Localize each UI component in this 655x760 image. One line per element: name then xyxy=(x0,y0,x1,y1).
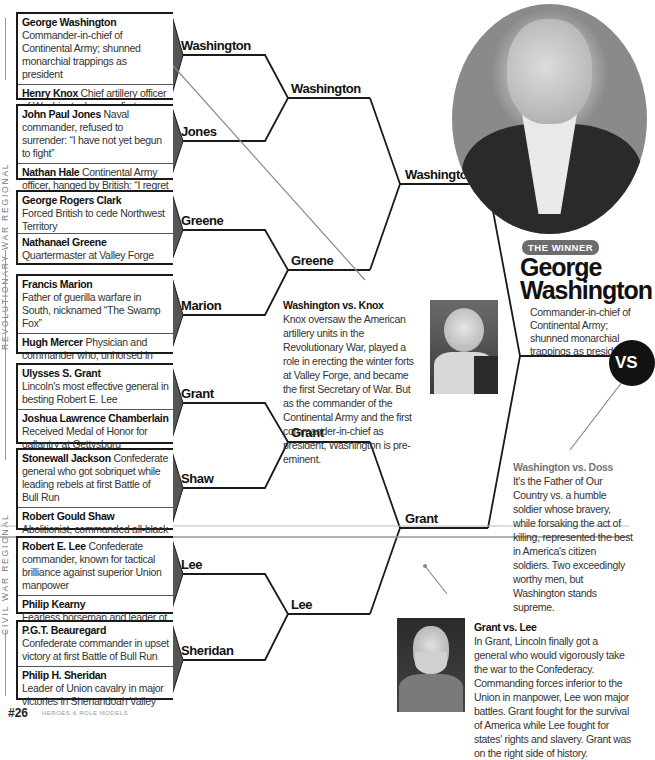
round1-winner-label: Grant xyxy=(181,386,214,401)
portrait-face xyxy=(507,19,592,124)
vs-badge: VS xyxy=(609,340,655,386)
contestant-name: Hugh Mercer xyxy=(22,336,83,348)
contestant-desc: Leader of Union cavalry in major victori… xyxy=(22,682,164,707)
matchup-card: Stonewall Jackson Confederate general wh… xyxy=(16,448,173,530)
portrait-beard xyxy=(415,652,447,674)
footer-section: HEROES & ROLE MODELS xyxy=(42,710,128,716)
round1-winner-label: Lee xyxy=(181,557,202,572)
round1-winner-label: Jones xyxy=(181,124,217,139)
matchup-card: Robert E. Lee Confederate commander, kno… xyxy=(16,536,173,614)
commentary-washington-knox: Washington vs. Knox Knox oversaw the Ame… xyxy=(283,298,421,466)
winner-name: George Washington xyxy=(520,256,652,302)
contestant-entry: P.G.T. BeauregardConfederate commander i… xyxy=(18,622,173,666)
matchup-card: John Paul Jones Naval commander, refused… xyxy=(16,104,173,180)
contestant-entry: Robert E. Lee Confederate commander, kno… xyxy=(18,538,173,595)
contestant-name: George Rogers Clark xyxy=(22,194,169,207)
contestant-entry: Philip H. SheridanLeader of Union cavalr… xyxy=(18,666,173,711)
round1-winner-label: Marion xyxy=(181,298,221,313)
contestant-entry: George Rogers ClarkForced British to ced… xyxy=(18,192,173,233)
contestant-name: Nathanael Greene xyxy=(22,236,169,249)
contestant-entry: Ulysses S. GrantLincoln's most effective… xyxy=(18,365,173,409)
contestant-desc: Commander-in-chief of Continental Army; … xyxy=(22,29,141,80)
matchup-card: P.G.T. BeauregardConfederate commander i… xyxy=(16,620,173,700)
contestant-desc: Father of guerilla warfare in South, nic… xyxy=(22,291,160,329)
contestant-name: P.G.T. Beauregard xyxy=(22,624,169,637)
contestant-name: Robert Gould Shaw xyxy=(22,510,169,523)
commentary-body: Knox oversaw the American artillery unit… xyxy=(283,313,414,465)
commentary-grant-lee: Grant vs. Lee In Grant, Lincoln finally … xyxy=(474,620,632,760)
contestant-name: Robert E. Lee xyxy=(22,540,86,552)
contestant-entry: Stonewall Jackson Confederate general wh… xyxy=(18,450,173,507)
contestant-name: Philip Kearny xyxy=(22,598,169,611)
contestant-desc: Quartermaster at Valley Forge xyxy=(22,249,154,261)
contestant-entry: George Washington Commander-in-chief of … xyxy=(18,14,173,84)
page-number: #26 xyxy=(8,706,28,720)
knox-portrait xyxy=(430,300,498,394)
commentary-title: Grant vs. Lee xyxy=(474,620,632,634)
washington-portrait xyxy=(452,4,647,234)
contestant-name: John Paul Jones xyxy=(22,108,101,120)
commentary-body: It's the Father of Our Country vs. a hum… xyxy=(513,475,633,613)
commentary-body: In Grant, Lincoln finally got a general … xyxy=(474,635,631,759)
contestant-name: Nathan Hale xyxy=(22,166,79,178)
portrait-lapel xyxy=(474,356,498,394)
round3-winner-label: Grant xyxy=(405,511,438,526)
contestant-name: Stonewall Jackson xyxy=(22,452,111,464)
commentary-title: Washington vs. Doss xyxy=(513,460,633,474)
portrait-coat xyxy=(399,674,463,712)
contestant-entry: John Paul Jones Naval commander, refused… xyxy=(18,106,173,163)
round1-winner-label: Sheridan xyxy=(181,643,233,658)
contestant-name: Francis Marion xyxy=(22,278,169,291)
contestant-desc: Received Medal of Honor for gallantry at… xyxy=(22,425,148,450)
round1-winner-label: Greene xyxy=(181,213,223,228)
contestant-desc: Forced British to cede Northwest Territo… xyxy=(22,207,165,232)
matchup-card: Ulysses S. GrantLincoln's most effective… xyxy=(16,363,173,444)
contestant-name: Ulysses S. Grant xyxy=(22,367,169,380)
contestant-entry: Francis MarionFather of guerilla warfare… xyxy=(18,276,173,333)
winner-name-line2: Washington xyxy=(520,279,652,302)
round2-winner-label: Washington xyxy=(291,81,361,96)
matchup-card: George Rogers ClarkForced British to ced… xyxy=(16,190,173,265)
lee-portrait xyxy=(397,618,465,712)
matchup-card: Francis MarionFather of guerilla warfare… xyxy=(16,274,173,354)
contestant-name: Joshua Lawrence Chamberlain xyxy=(22,412,169,425)
contestant-desc: Lincoln's most effective general in best… xyxy=(22,380,169,405)
portrait-face xyxy=(444,308,484,352)
round1-winner-label: Shaw xyxy=(181,471,213,486)
commentary-washington-doss: Washington vs. Doss It's the Father of O… xyxy=(513,460,633,614)
round2-winner-label: Greene xyxy=(291,253,333,268)
contestant-entry: Nathanael GreeneQuartermaster at Valley … xyxy=(18,233,173,265)
contestant-name: Henry Knox xyxy=(22,87,78,99)
round1-winner-label: Washington xyxy=(181,38,251,53)
contestant-name: George Washington xyxy=(22,16,116,28)
contestant-name: Philip H. Sheridan xyxy=(22,669,169,682)
commentary-title: Washington vs. Knox xyxy=(283,298,421,312)
matchup-card: George Washington Commander-in-chief of … xyxy=(16,12,173,100)
contestant-desc: Confederate commander in upset victory a… xyxy=(22,637,169,662)
round2-winner-label: Lee xyxy=(291,597,312,612)
